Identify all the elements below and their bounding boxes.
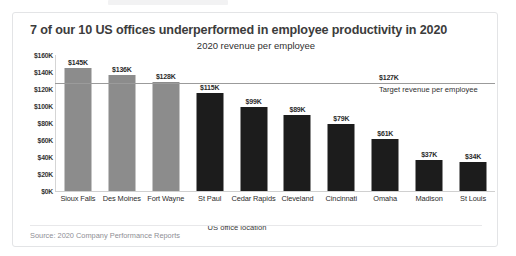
- bar-value-label: $128K: [156, 73, 176, 80]
- card-title: 7 of our 10 US offices underperformed in…: [30, 23, 482, 37]
- bar[interactable]: [196, 93, 223, 191]
- target-reference-line: [55, 83, 495, 84]
- bar-value-label: $89K: [289, 106, 305, 113]
- y-axis-tick: $160K: [13, 52, 53, 59]
- bar-series: $145K$136K$128K$115K$99K$89K$79K$61K$37K…: [56, 55, 495, 191]
- bar-value-label: $37K: [421, 151, 437, 158]
- y-axis-tick: $140K: [13, 69, 53, 76]
- y-axis-tick: $100K: [13, 103, 53, 110]
- y-axis-tick: $120K: [13, 86, 53, 93]
- source-note: Source: 2020 Company Performance Reports: [30, 231, 180, 240]
- chart-subtitle: 2020 revenue per employee: [13, 40, 499, 51]
- bar-slot: $128K: [144, 55, 188, 191]
- y-axis-tick: $40K: [13, 154, 53, 161]
- bar-value-label: $99K: [246, 98, 262, 105]
- y-axis-tick: $80K: [13, 120, 53, 127]
- bar-value-label: $79K: [333, 115, 349, 122]
- bar-slot: $37K: [407, 55, 451, 191]
- bar-value-label: $145K: [68, 59, 88, 66]
- bar[interactable]: [460, 162, 487, 191]
- bar[interactable]: [152, 82, 179, 191]
- bar-slot: $145K: [56, 55, 100, 191]
- x-axis-line: [55, 191, 495, 192]
- bar-value-label: $61K: [377, 130, 393, 137]
- bar-value-label: $115K: [200, 84, 219, 91]
- x-axis-tick: St Louis: [447, 194, 499, 204]
- bar[interactable]: [64, 68, 91, 191]
- bar[interactable]: [372, 139, 399, 191]
- bar[interactable]: [328, 124, 355, 191]
- bar-value-label: $34K: [465, 153, 481, 160]
- bar-slot: $79K: [319, 55, 363, 191]
- screenshot-root: 7 of our 10 US offices underperformed in…: [0, 0, 516, 256]
- bar-value-label: $136K: [112, 66, 132, 73]
- y-axis-tick: $20K: [13, 171, 53, 178]
- bar-slot: $115K: [188, 55, 232, 191]
- target-value-label: $127K: [379, 74, 399, 81]
- target-caption-label: Target revenue per employee: [379, 85, 478, 94]
- plot-area: $160K$140K$120K$100K$80K$60K$40K$20K$0K …: [13, 55, 499, 205]
- y-axis-tick: $60K: [13, 137, 53, 144]
- bar[interactable]: [416, 160, 443, 191]
- y-axis-tick-labels: $160K$140K$120K$100K$80K$60K$40K$20K$0K: [13, 55, 53, 191]
- y-axis-tick: $0K: [13, 188, 53, 195]
- x-axis-tick-labels: Sioux FallsDes MoinesFort WayneSt PaulCe…: [56, 194, 495, 222]
- bar-slot: $99K: [232, 55, 276, 191]
- bar-slot: $136K: [100, 55, 144, 191]
- clipped-top-element: [108, 0, 228, 5]
- bar-slot: $89K: [276, 55, 320, 191]
- footer-divider: [30, 225, 482, 226]
- bar[interactable]: [108, 75, 135, 191]
- chart-card: 7 of our 10 US offices underperformed in…: [12, 12, 498, 247]
- bar-slot: $34K: [451, 55, 495, 191]
- bar[interactable]: [284, 115, 311, 191]
- bar[interactable]: [240, 107, 267, 191]
